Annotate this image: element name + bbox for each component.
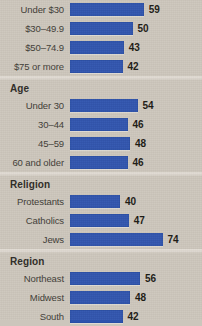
- bar: [70, 291, 130, 304]
- bar-category-label: $50–74.9: [0, 42, 70, 53]
- bar-row: $50–74.943: [0, 38, 202, 57]
- bar-category-label: Under 30: [0, 100, 70, 111]
- bar-track: 47: [70, 211, 202, 230]
- bar-category-label: $75 or more: [0, 61, 70, 72]
- bar-value-label: 42: [128, 61, 139, 72]
- bar-value-label: 59: [149, 4, 160, 15]
- bar-track: 48: [70, 134, 202, 153]
- bar-category-label: $30–49.9: [0, 23, 70, 34]
- chart-section: AgeUnder 305430–444645–594860 and older4…: [0, 76, 202, 172]
- bar-track: 50: [70, 19, 202, 38]
- bar-category-label: Jews: [0, 234, 70, 245]
- bar: [70, 137, 130, 150]
- bar-value-label: 46: [133, 119, 144, 130]
- bar-value-label: 48: [135, 292, 146, 303]
- chart-section: RegionNortheast56Midwest48South42: [0, 249, 202, 326]
- bar-value-label: 74: [168, 234, 179, 245]
- bar-category-label: Under $30: [0, 4, 70, 15]
- bar: [70, 60, 123, 73]
- bar-row: $75 or more42: [0, 57, 202, 76]
- bar-track: 56: [70, 269, 202, 288]
- bar-value-label: 56: [145, 273, 156, 284]
- bar-row: South42: [0, 307, 202, 326]
- bar-row: 30–4446: [0, 115, 202, 134]
- bar: [70, 272, 140, 285]
- bar-row: Northeast56: [0, 269, 202, 288]
- chart-section: Under $3059$30–49.950$50–74.943$75 or mo…: [0, 0, 202, 76]
- bar: [70, 310, 123, 323]
- bar-track: 46: [70, 115, 202, 134]
- bar-value-label: 42: [128, 311, 139, 322]
- bar-value-label: 50: [138, 23, 149, 34]
- bar: [70, 41, 124, 54]
- bar-track: 40: [70, 192, 202, 211]
- bar-category-label: 60 and older: [0, 157, 70, 168]
- bar-category-label: Northeast: [0, 273, 70, 284]
- bar: [70, 99, 138, 112]
- bar: [70, 195, 120, 208]
- bar-category-label: 30–44: [0, 119, 70, 130]
- bar-value-label: 43: [129, 42, 140, 53]
- bar-track: 48: [70, 288, 202, 307]
- bar-track: 43: [70, 38, 202, 57]
- bar-category-label: South: [0, 311, 70, 322]
- bar-track: 42: [70, 57, 202, 76]
- bar-category-label: Midwest: [0, 292, 70, 303]
- bar-value-label: 48: [135, 138, 146, 149]
- bar-row: Jews74: [0, 230, 202, 249]
- bar-category-label: Protestants: [0, 196, 70, 207]
- section-title: Religion: [0, 176, 202, 192]
- bar-track: 54: [70, 96, 202, 115]
- bar-track: 46: [70, 153, 202, 172]
- chart-section: ReligionProtestants40Catholics47Jews74: [0, 172, 202, 249]
- bar-track: 59: [70, 0, 202, 19]
- bar-category-label: Catholics: [0, 215, 70, 226]
- bar: [70, 22, 133, 35]
- bar-row: Midwest48: [0, 288, 202, 307]
- bar-row: 60 and older46: [0, 153, 202, 172]
- bar-value-label: 40: [125, 196, 136, 207]
- bar-value-label: 47: [134, 215, 145, 226]
- bar: [70, 233, 163, 246]
- section-title: Age: [0, 80, 202, 96]
- bar-track: 42: [70, 307, 202, 326]
- bar-row: Protestants40: [0, 192, 202, 211]
- bar: [70, 214, 129, 227]
- bar: [70, 156, 128, 169]
- bar: [70, 3, 144, 16]
- bar-row: Under $3059: [0, 0, 202, 19]
- bar-track: 74: [70, 230, 202, 249]
- bar-row: $30–49.950: [0, 19, 202, 38]
- bar-value-label: 46: [133, 157, 144, 168]
- bar-row: Catholics47: [0, 211, 202, 230]
- bar-row: 45–5948: [0, 134, 202, 153]
- bar-row: Under 3054: [0, 96, 202, 115]
- bar-value-label: 54: [143, 100, 154, 111]
- bar: [70, 118, 128, 131]
- bar-category-label: 45–59: [0, 138, 70, 149]
- section-title: Region: [0, 253, 202, 269]
